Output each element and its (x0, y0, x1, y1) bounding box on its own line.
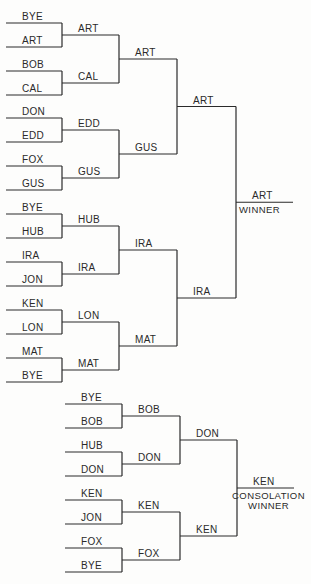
player-name: HUB (22, 226, 44, 237)
player-name: ART (135, 47, 156, 58)
consolation-bracket: BYEBOBHUBDONKENJONFOXBYEBOBDONKENFOXDONK… (65, 392, 305, 572)
player-name: BYE (81, 392, 102, 403)
player-name: IRA (135, 238, 153, 249)
winner-caption: WINNER (248, 500, 289, 511)
player-name: DON (138, 452, 161, 463)
player-name: HUB (81, 440, 103, 451)
player-name: MAT (78, 358, 99, 369)
player-name: GUS (22, 178, 45, 189)
player-name: JON (81, 512, 102, 523)
player-name: JON (22, 274, 43, 285)
player-name: IRA (193, 286, 211, 297)
player-name: LON (78, 310, 99, 321)
player-name: IRA (78, 262, 96, 273)
player-name: HUB (78, 214, 100, 225)
player-name: KEN (253, 476, 274, 487)
player-name: BYE (81, 560, 102, 571)
player-name: IRA (22, 250, 40, 261)
round-1: BYEARTBOBCALDONEDDFOXGUSBYEHUBIRAJONKENL… (6, 11, 62, 382)
player-name: FOX (22, 154, 43, 165)
player-name: LON (22, 322, 43, 333)
player-name: KEN (138, 500, 159, 511)
player-name: BOB (138, 404, 160, 415)
round-4: KEN (237, 476, 294, 488)
round-5: ART (236, 190, 293, 202)
player-name: MAT (22, 346, 43, 357)
player-name: BYE (22, 11, 43, 22)
player-name: GUS (135, 142, 158, 153)
round-3: ARTGUSIRAMAT (119, 47, 177, 346)
round-2: ARTCALEDDGUSHUBIRALONMAT (62, 23, 119, 370)
player-name: CAL (22, 83, 42, 94)
player-name: KEN (196, 524, 217, 535)
player-name: EDD (22, 130, 44, 141)
player-name: KEN (22, 298, 43, 309)
round-4: ARTIRA (177, 95, 236, 299)
round-1: BYEBOBHUBDONKENJONFOXBYE (65, 392, 122, 572)
player-name: BOB (81, 416, 103, 427)
player-name: BYE (22, 370, 43, 381)
player-name: FOX (138, 548, 159, 559)
player-name: DON (196, 428, 219, 439)
player-name: BYE (22, 202, 43, 213)
player-name: ART (22, 35, 43, 46)
player-name: MAT (135, 334, 156, 345)
player-name: CAL (78, 71, 98, 82)
round-3: DONKEN (180, 428, 237, 536)
player-name: ART (193, 95, 214, 106)
player-name: EDD (78, 118, 100, 129)
tournament-bracket-diagram: BYEARTBOBCALDONEDDFOXGUSBYEHUBIRAJONKENL… (0, 0, 311, 584)
player-name: ART (252, 190, 273, 201)
winner-caption: WINNER (239, 204, 280, 215)
player-name: BOB (22, 59, 44, 70)
player-name: DON (22, 106, 45, 117)
player-name: GUS (78, 166, 101, 177)
round-2: BOBDONKENFOX (122, 404, 180, 560)
player-name: DON (81, 464, 104, 475)
player-name: FOX (81, 536, 102, 547)
player-name: ART (78, 23, 99, 34)
player-name: KEN (81, 488, 102, 499)
main-bracket: BYEARTBOBCALDONEDDFOXGUSBYEHUBIRAJONKENL… (6, 11, 293, 382)
